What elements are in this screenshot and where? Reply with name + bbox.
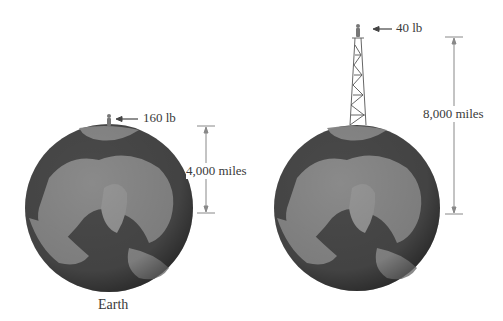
weight-label-left: 160 lb — [143, 110, 176, 126]
earth-globe-left — [25, 124, 193, 292]
weight-label-right: 40 lb — [396, 20, 422, 36]
arrow-icon-right — [373, 27, 392, 32]
earth-globe-right — [274, 125, 440, 291]
tower-icon — [350, 38, 366, 125]
distance-label-right: 8,000 miles — [423, 106, 484, 122]
earth-caption: Earth — [98, 297, 128, 313]
arrow-icon-left — [116, 117, 138, 122]
person-icon-left — [107, 114, 111, 126]
person-icon-right — [356, 24, 360, 37]
distance-label-left: 4,000 miles — [186, 163, 247, 179]
dimension-line-right — [445, 37, 463, 214]
diagram-canvas — [0, 0, 503, 321]
